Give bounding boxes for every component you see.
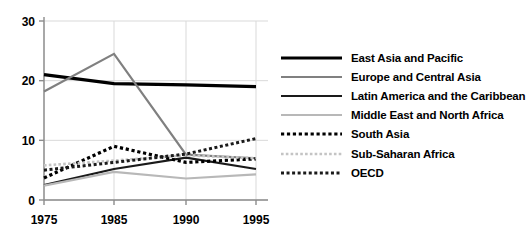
legend-item[interactable]: East Asia and Pacific xyxy=(281,48,505,67)
y-axis-tick-label: 0 xyxy=(28,194,35,208)
x-axis-tick-labels: 1975198519901995 xyxy=(31,213,270,227)
data-series-group xyxy=(44,54,256,186)
legend-item-label: Sub-Saharan Africa xyxy=(351,148,455,160)
series-line xyxy=(44,146,256,178)
legend-item-label: South Asia xyxy=(351,128,409,140)
legend-item-label: Europe and Central Asia xyxy=(351,71,481,83)
legend-item-label: Latin America and the Caribbean xyxy=(351,90,526,102)
legend-item[interactable]: Latin America and the Caribbean xyxy=(281,86,505,105)
legend-swatch-line-icon xyxy=(281,167,342,179)
legend-item[interactable]: Europe and Central Asia xyxy=(281,67,505,86)
legend-item[interactable]: OECD xyxy=(281,163,505,182)
legend-swatch-line-icon xyxy=(281,52,342,64)
y-axis-tick-label: 30 xyxy=(22,15,36,29)
legend-item-label: OECD xyxy=(351,167,384,179)
legend-item[interactable]: South Asia xyxy=(281,125,505,144)
legend-item[interactable]: Sub-Saharan Africa xyxy=(281,144,505,163)
legend-item-label: East Asia and Pacific xyxy=(351,52,463,64)
x-axis-tick-label: 1990 xyxy=(173,213,200,227)
series-line xyxy=(44,172,256,186)
x-axis-tick-label: 1975 xyxy=(31,213,58,227)
legend-item[interactable]: Middle East and North Africa xyxy=(281,106,505,125)
x-axis-tick-label: 1995 xyxy=(243,213,270,227)
legend-swatch-line-icon xyxy=(281,148,342,160)
x-axis-tick-label: 1985 xyxy=(101,213,128,227)
legend-swatch-line-icon xyxy=(281,128,342,140)
legend-swatch-line-icon xyxy=(281,109,342,121)
y-axis-tick-label: 20 xyxy=(22,74,36,88)
grid-lines xyxy=(44,21,268,200)
tick-marks xyxy=(39,21,256,205)
y-axis-tick-label: 10 xyxy=(22,134,36,148)
legend-swatch-line-icon xyxy=(281,71,342,83)
plot-area: 0102030 1975198519901995 xyxy=(0,0,272,244)
y-axis-tick-labels: 0102030 xyxy=(22,15,36,208)
legend-swatch-line-icon xyxy=(281,90,342,102)
series-line xyxy=(44,54,256,158)
axis-lines xyxy=(44,17,268,200)
line-chart-svg: 0102030 1975198519901995 xyxy=(0,0,272,244)
chart-legend: East Asia and PacificEurope and Central … xyxy=(281,48,505,182)
series-line xyxy=(44,158,256,185)
legend-item-label: Middle East and North Africa xyxy=(351,109,504,121)
